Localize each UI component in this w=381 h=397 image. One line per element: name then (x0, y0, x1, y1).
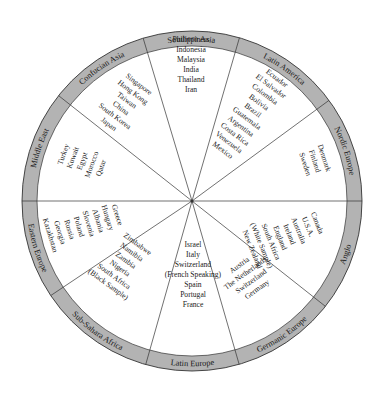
country-list-latin-america: EcuadorEl SalvadorColombiaBoliviaBrazilG… (206, 64, 294, 165)
country-item: Malaysia (177, 55, 205, 64)
country-item: Italy (186, 250, 200, 259)
country-item: Switzerland (175, 260, 211, 269)
cluster-label-germanic-europe: Germanic Europe (255, 314, 309, 354)
cluster-label-sub-sahara-africa: Sub-Sahara Africa (70, 309, 124, 352)
cluster-label-latin-europe: Latin Europe (170, 358, 215, 369)
country-item: Indonesia (176, 45, 206, 54)
country-list-latin-europe: IsraelItalySwitzerland(French Speaking)S… (165, 240, 222, 309)
country-item: Thailand (178, 75, 205, 84)
center-hub (190, 199, 193, 202)
country-list-middle-east: TurkeyKuwaitEgyptMoroccoQatar (54, 140, 109, 183)
country-item: Philippiness (172, 35, 209, 44)
country-item: Spain (184, 280, 202, 289)
country-item: France (183, 300, 204, 309)
country-list-eastern-europe: GreeceHungaryAlbaniaSloveniaPolandRussia… (41, 197, 127, 254)
country-item: (French Speaking) (165, 270, 222, 279)
country-list-southern-asia: PhilippinessIndonesiaMalaysiaIndiaThaila… (172, 35, 209, 94)
country-item: Portugal (180, 290, 206, 299)
country-item: Iran (185, 85, 197, 94)
country-list-nordic-europe: DenmarkFinlandSweden (297, 143, 333, 179)
cluster-wheel-diagram: Southern AsiaLatin AmericaNordic EuropeA… (0, 0, 381, 397)
country-item: India (183, 65, 199, 74)
country-item: Israel (185, 240, 202, 249)
